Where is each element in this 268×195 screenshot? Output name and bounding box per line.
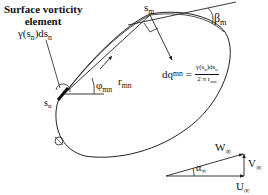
phi-angle-arc bbox=[92, 78, 94, 94]
label-phi-mn: φmn bbox=[96, 80, 112, 93]
dq-formula: dqmn = γ(sn)dsn 2 π rmn bbox=[162, 64, 219, 84]
title-leader-line bbox=[46, 40, 60, 88]
alpha-angle-arc bbox=[193, 168, 194, 176]
formula-fraction: γ(sn)dsn 2 π rmn bbox=[195, 64, 219, 84]
title-line-2: element bbox=[4, 16, 82, 27]
dq-arrow bbox=[150, 15, 172, 60]
label-r-mn: rmn bbox=[118, 76, 132, 89]
title-line-3: γ(sn)dsn bbox=[18, 28, 52, 41]
label-s-m: sm bbox=[144, 2, 154, 15]
title-line-1: Surface vorticity bbox=[4, 4, 82, 15]
label-s-n: sn bbox=[44, 98, 51, 110]
r-mn-arrow bbox=[100, 56, 112, 69]
body-contour bbox=[56, 12, 230, 157]
label-V-inf: V∞ bbox=[248, 158, 261, 171]
label-beta-m: βm bbox=[214, 12, 227, 27]
label-alpha-inf: α∞ bbox=[196, 163, 206, 175]
vorticity-diagram: Surface vorticity element γ(sn)dsn sm βm… bbox=[0, 0, 268, 195]
label-U-inf: U∞ bbox=[236, 181, 249, 194]
label-W-inf: W∞ bbox=[215, 142, 231, 155]
